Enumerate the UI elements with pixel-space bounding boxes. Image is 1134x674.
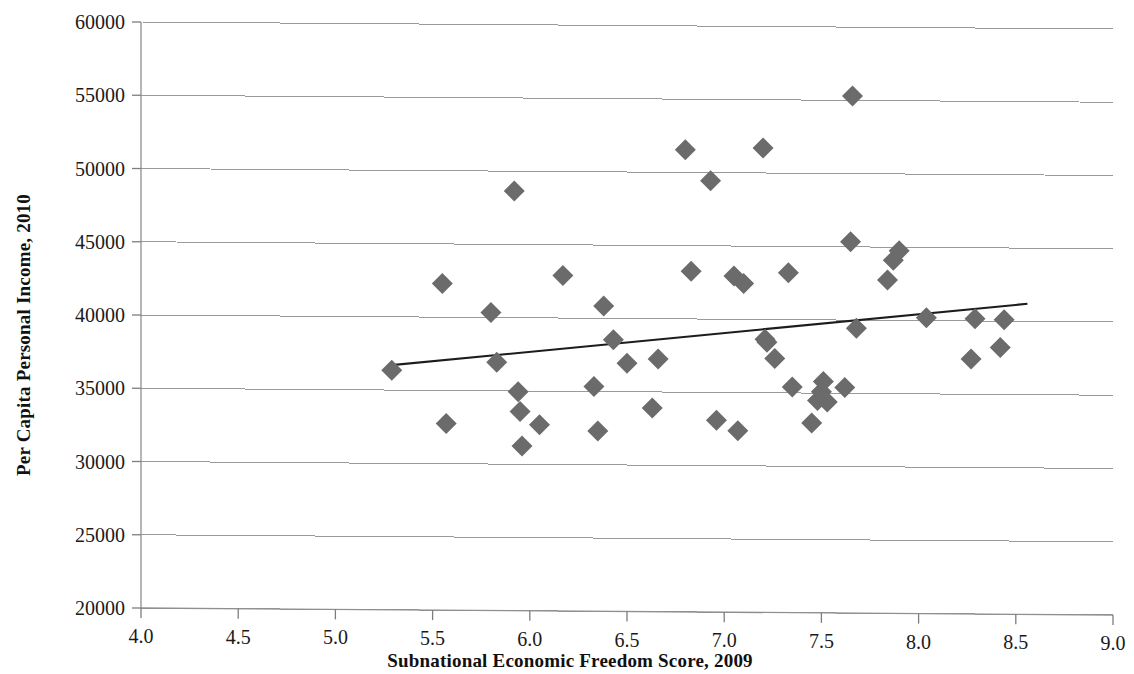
y-tick-label: 50000 xyxy=(75,158,125,180)
gridline xyxy=(141,242,1113,249)
data-point-marker xyxy=(480,302,501,323)
data-point-marker xyxy=(508,381,529,402)
x-tick-label: 9.0 xyxy=(1101,632,1126,654)
data-point-marker xyxy=(964,308,985,329)
chart-canvas: 2000025000300003500040000450005000055000… xyxy=(0,0,1134,674)
data-point-marker xyxy=(834,377,855,398)
x-axis-group xyxy=(141,608,1113,625)
gridline xyxy=(141,388,1113,395)
data-point-marker xyxy=(916,307,937,328)
gridline xyxy=(141,169,1113,176)
scatter-chart: 2000025000300003500040000450005000055000… xyxy=(0,0,1134,674)
data-point-marker xyxy=(593,295,614,316)
data-point-marker xyxy=(529,414,550,435)
data-point-marker xyxy=(504,180,525,201)
x-tick-label: 6.0 xyxy=(517,628,542,650)
data-point-marker xyxy=(782,377,803,398)
y-axis-group xyxy=(132,22,141,608)
x-tick-label: 5.0 xyxy=(323,626,348,648)
x-tick-label: 5.5 xyxy=(420,627,445,649)
y-axis-title: Per Capita Personal Income, 2010 xyxy=(13,194,34,476)
data-point-marker xyxy=(552,265,573,286)
gridline xyxy=(141,462,1113,469)
data-point-marker xyxy=(681,261,702,282)
data-point-marker xyxy=(706,410,727,431)
data-point-marker xyxy=(727,420,748,441)
data-point-marker xyxy=(510,401,531,422)
y-tick-label: 25000 xyxy=(75,524,125,546)
y-tick-label: 45000 xyxy=(75,231,125,253)
gridline xyxy=(141,95,1113,102)
data-points-group xyxy=(381,85,1014,456)
x-axis-title: Subnational Economic Freedom Score, 2009 xyxy=(387,650,753,671)
x-tick-label: 4.0 xyxy=(129,625,154,647)
x-tick-label: 7.0 xyxy=(712,629,737,651)
data-point-marker xyxy=(381,360,402,381)
y-tick-labels-group: 2000025000300003500040000450005000055000… xyxy=(75,11,125,619)
data-point-marker xyxy=(512,435,533,456)
y-tick-label: 20000 xyxy=(75,597,125,619)
data-point-marker xyxy=(753,138,774,159)
y-tick-label: 35000 xyxy=(75,377,125,399)
x-tick-label: 7.5 xyxy=(809,630,834,652)
data-point-marker xyxy=(801,413,822,434)
x-tick-label: 4.5 xyxy=(226,626,251,648)
data-point-marker xyxy=(617,353,638,374)
data-point-marker xyxy=(642,398,663,419)
gridline xyxy=(141,22,1113,29)
y-tick-label: 60000 xyxy=(75,11,125,33)
data-point-marker xyxy=(603,329,624,350)
data-point-marker xyxy=(994,309,1015,330)
data-point-marker xyxy=(675,139,696,160)
data-point-marker xyxy=(961,349,982,370)
data-point-marker xyxy=(840,231,861,252)
x-tick-label: 8.0 xyxy=(906,631,931,653)
data-point-marker xyxy=(700,170,721,191)
x-tick-label: 6.5 xyxy=(615,629,640,651)
data-point-marker xyxy=(842,85,863,106)
data-point-marker xyxy=(648,349,669,370)
data-point-marker xyxy=(877,270,898,291)
data-point-marker xyxy=(432,273,453,294)
gridline xyxy=(141,535,1113,542)
data-point-marker xyxy=(990,337,1011,358)
data-point-marker xyxy=(436,413,457,434)
y-tick-label: 30000 xyxy=(75,451,125,473)
x-tick-label: 8.5 xyxy=(1003,631,1028,653)
data-point-marker xyxy=(583,376,604,397)
data-point-marker xyxy=(587,421,608,442)
data-point-marker xyxy=(778,262,799,283)
y-tick-label: 55000 xyxy=(75,84,125,106)
y-tick-label: 40000 xyxy=(75,304,125,326)
